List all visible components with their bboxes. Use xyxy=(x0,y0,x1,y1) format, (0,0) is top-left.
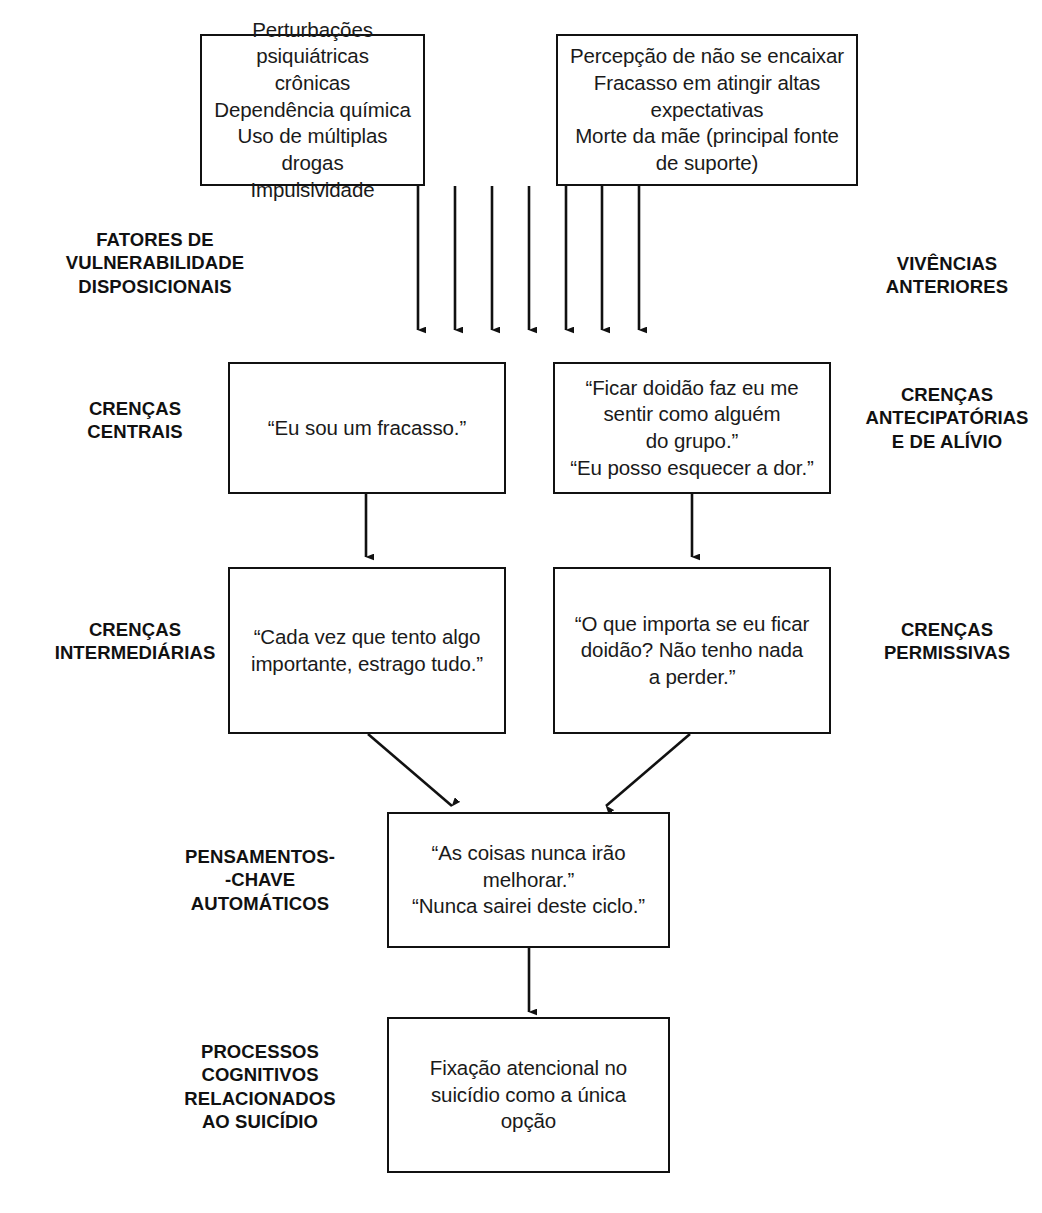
box-vulnerabilidade-text: Perturbações psiquiátricas crônicas Depe… xyxy=(202,17,423,203)
box-fixacao-suicidio: Fixação atencional no suicídio como a ún… xyxy=(387,1017,670,1173)
box-crenca-permissiva-text: “O que importa se eu ficar doidão? Não t… xyxy=(565,611,819,691)
stage-label-crencas-permissivas: CRENÇAS PERMISSIVAS xyxy=(852,618,1042,665)
arrow-intermediate-to-automatic xyxy=(368,734,452,806)
stage-label-crencas-intermediarias: CRENÇAS INTERMEDIÁRIAS xyxy=(30,618,240,665)
box-crenca-antecipatoria-text: “Ficar doidão faz eu me sentir como algu… xyxy=(560,375,824,482)
arrow-permissive-to-automatic xyxy=(606,734,690,806)
arrows-top-fan xyxy=(418,186,639,330)
box-crenca-central: “Eu sou um fracasso.” xyxy=(228,362,506,494)
box-pensamentos-automaticos-text: “As coisas nunca irão melhorar.” “Nunca … xyxy=(402,840,655,920)
stage-label-crencas-antecipatorias: CRENÇAS ANTECIPATÓRIAS E DE ALÍVIO xyxy=(852,383,1042,453)
stage-label-vivencias-anteriores: VIVÊNCIAS ANTERIORES xyxy=(852,252,1042,299)
stage-label-crencas-centrais: CRENÇAS CENTRAIS xyxy=(40,397,230,444)
box-crenca-intermediaria: “Cada vez que tento algo importante, est… xyxy=(228,567,506,734)
cognitive-model-diagram: Perturbações psiquiátricas crônicas Depe… xyxy=(0,0,1042,1213)
stage-label-pensamentos-chave: PENSAMENTOS- -CHAVE AUTOMÁTICOS xyxy=(155,845,365,915)
box-vulnerabilidade: Perturbações psiquiátricas crônicas Depe… xyxy=(200,34,425,186)
box-crenca-intermediaria-text: “Cada vez que tento algo importante, est… xyxy=(241,624,493,677)
box-crenca-central-text: “Eu sou um fracasso.” xyxy=(258,415,476,442)
box-crenca-antecipatoria: “Ficar doidão faz eu me sentir como algu… xyxy=(553,362,831,494)
box-vivencias: Percepção de não se encaixar Fracasso em… xyxy=(556,34,858,186)
box-fixacao-suicidio-text: Fixação atencional no suicídio como a ún… xyxy=(420,1055,637,1135)
stage-label-processos-cognitivos: PROCESSOS COGNITIVOS RELACIONADOS AO SUI… xyxy=(155,1040,365,1134)
box-crenca-permissiva: “O que importa se eu ficar doidão? Não t… xyxy=(553,567,831,734)
stage-label-fatores-vulnerabilidade: FATORES DE VULNERABILIDADE DISPOSICIONAI… xyxy=(30,228,280,298)
box-vivencias-text: Percepção de não se encaixar Fracasso em… xyxy=(560,43,854,176)
box-pensamentos-automaticos: “As coisas nunca irão melhorar.” “Nunca … xyxy=(387,812,670,948)
